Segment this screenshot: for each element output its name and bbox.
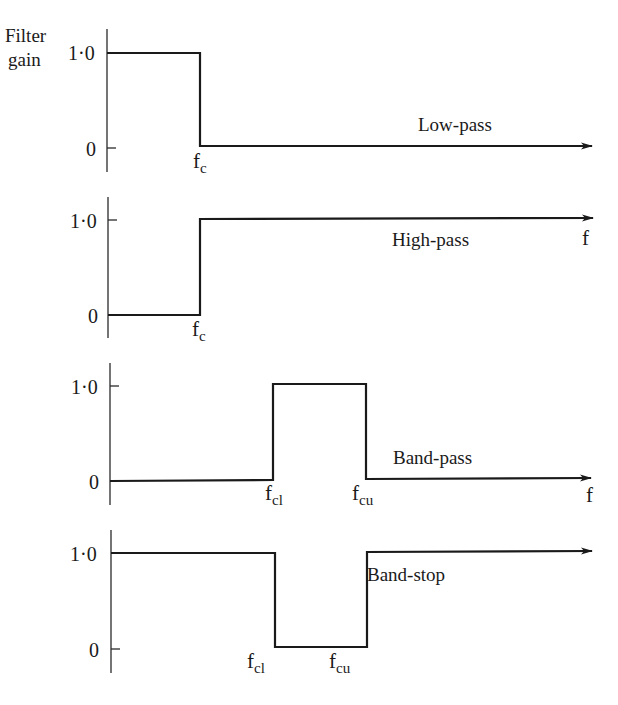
tick-label-one: 1·0 [68, 42, 95, 64]
panel-low-pass: 1·0 0 Low-pass fc [68, 29, 592, 176]
panel-label: Band-stop [367, 564, 445, 585]
x-axis-f-label: f [582, 226, 589, 250]
cutoff-label-fcu: fcu [352, 481, 374, 508]
gain-curve-band-pass [110, 384, 591, 481]
tick-label-zero: 0 [89, 471, 99, 493]
tick-label-one: 1·0 [70, 543, 97, 565]
tick-label-one: 1·0 [71, 376, 98, 398]
cutoff-label-fc: fc [192, 317, 206, 344]
panel-label: Band-pass [393, 447, 472, 468]
y-axis-label-line1: Filter [5, 25, 47, 46]
filter-gain-diagram: Filter gain 1·0 0 Low-pass fc 1·0 0 High… [0, 0, 618, 705]
cutoff-label-fcl: fcl [265, 481, 283, 508]
gain-curve-high-pass [108, 218, 593, 315]
panel-band-stop: 1·0 0 Band-stop fcl fcu [70, 530, 592, 676]
tick-label-zero: 0 [89, 639, 99, 661]
tick-label-zero: 0 [88, 305, 98, 327]
panel-band-pass: 1·0 0 Band-pass f fcl fcu [71, 363, 593, 508]
panel-label: Low-pass [418, 114, 492, 135]
panel-high-pass: 1·0 0 High-pass f fc [70, 197, 593, 344]
cutoff-label-fcl: fcl [247, 649, 265, 676]
gain-curve-band-stop [111, 551, 592, 647]
y-axis-label-line2: gain [8, 49, 41, 70]
cutoff-label-fcu: fcu [329, 649, 351, 676]
tick-label-one: 1·0 [70, 210, 97, 232]
panel-label: High-pass [392, 229, 469, 250]
tick-label-zero: 0 [86, 138, 96, 160]
cutoff-label-fc: fc [193, 149, 207, 176]
gain-curve-low-pass [107, 53, 592, 146]
x-axis-f-label: f [586, 483, 593, 507]
